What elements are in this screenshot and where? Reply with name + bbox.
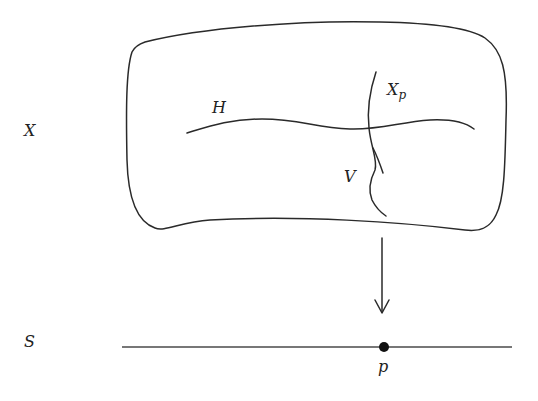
label-fiber-Xp: Xp (385, 80, 406, 102)
label-total-space-X: X (22, 121, 36, 140)
label-curve-H: H (211, 98, 227, 117)
point-p (379, 342, 389, 352)
surface-X-outline (127, 22, 507, 231)
fibration-diagram: X S H Xp V p (0, 0, 538, 401)
label-point-p: p (378, 357, 388, 376)
label-curve-V: V (344, 167, 357, 186)
curve-H (187, 119, 474, 133)
fiber-Xp (368, 72, 386, 216)
label-base-space-S: S (24, 332, 35, 351)
